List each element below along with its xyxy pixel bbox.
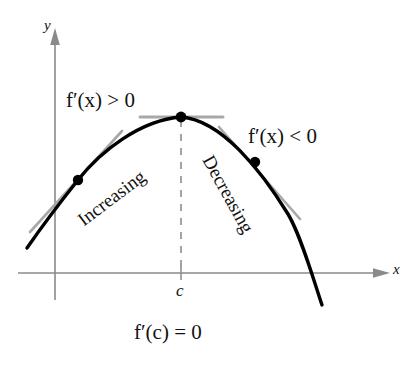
calculus-figure: y x f′(x) > 0 f′(x) < 0 Increasing Decre…	[0, 0, 411, 368]
point-decreasing	[250, 157, 260, 167]
y-axis-label: y	[44, 18, 51, 33]
derivative-negative-label: f′(x) < 0	[248, 126, 317, 147]
figure-caption: f′(c) = 0	[134, 322, 202, 343]
critical-point-tick-label: c	[176, 282, 184, 299]
point-increasing	[73, 175, 83, 185]
y-axis	[50, 28, 60, 300]
figure-canvas	[0, 0, 411, 368]
x-axis	[18, 268, 390, 278]
derivative-positive-label: f′(x) > 0	[66, 90, 135, 111]
x-axis-label: x	[393, 262, 400, 277]
point-critical	[176, 112, 187, 123]
